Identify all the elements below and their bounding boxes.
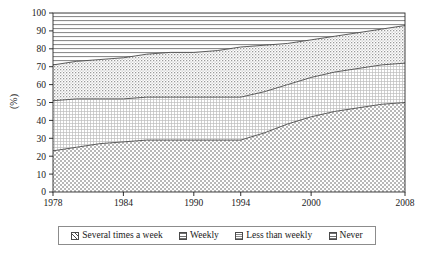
x-tick-label: 1994 xyxy=(231,198,250,208)
chart-legend: Several times a week Weekly Less than we… xyxy=(58,226,376,245)
legend-label: Weekly xyxy=(190,231,219,241)
y-tick-label: 100 xyxy=(32,8,47,18)
x-tick-label: 1984 xyxy=(114,198,133,208)
x-tick-label: 1990 xyxy=(184,198,203,208)
y-tick-label: 90 xyxy=(37,26,47,36)
legend-label: Never xyxy=(340,231,363,241)
x-tick-label: 2000 xyxy=(302,198,321,208)
x-tick-label: 1978 xyxy=(44,198,63,208)
y-tick-label: 70 xyxy=(37,62,47,72)
y-tick-label: 10 xyxy=(37,170,47,180)
y-axis-title: (%) xyxy=(8,91,19,113)
area-bands xyxy=(53,13,405,192)
y-tick-label: 50 xyxy=(37,98,47,108)
legend-item[interactable]: Less than weekly xyxy=(235,231,312,241)
x-axis: 197819841990199420002008 xyxy=(44,192,415,208)
legend-swatch-several-times-a-week xyxy=(71,232,79,240)
plot-area: 0102030405060708090100 19781984199019942… xyxy=(0,0,428,215)
y-tick-label: 30 xyxy=(37,134,47,144)
y-tick-label: 0 xyxy=(41,187,46,197)
legend-swatch-less-than-weekly xyxy=(235,232,243,240)
legend-item[interactable]: Several times a week xyxy=(71,231,162,241)
legend-swatch-never xyxy=(329,232,337,240)
y-tick-label: 80 xyxy=(37,44,47,54)
y-tick-label: 60 xyxy=(37,80,47,90)
legend-swatch-weekly xyxy=(179,232,187,240)
legend-item[interactable]: Never xyxy=(329,231,363,241)
x-tick-label: 2008 xyxy=(396,198,415,208)
legend-label: Several times a week xyxy=(82,231,162,241)
legend-item[interactable]: Weekly xyxy=(179,231,219,241)
y-tick-label: 20 xyxy=(37,152,47,162)
y-tick-label: 40 xyxy=(37,116,47,126)
y-axis: 0102030405060708090100 xyxy=(32,8,53,197)
chart-container: 0102030405060708090100 19781984199019942… xyxy=(0,0,428,261)
stacked-area-chart: 0102030405060708090100 19781984199019942… xyxy=(0,0,428,215)
legend-label: Less than weekly xyxy=(246,231,312,241)
